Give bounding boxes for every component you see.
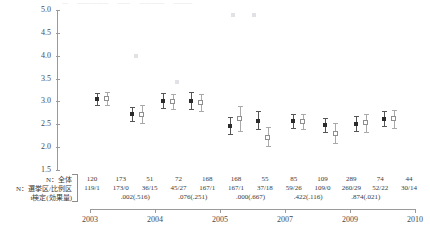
data-point [198,100,203,105]
data-point [265,135,270,140]
y-tick [56,56,60,57]
data-point [170,99,175,104]
data-point [323,123,327,127]
error-bar-cap [130,107,135,108]
error-bar-cap [95,105,100,106]
data-point [161,99,165,103]
x-tick-label: 2004 [135,215,175,224]
error-bar-cap [95,93,100,94]
y-axis-line [57,10,58,170]
y-tick-label: 4.5 [23,29,51,37]
header-fragment: —— [118,0,131,6]
x-tick-label: 2005 [200,215,240,224]
error-bar-cap [140,105,145,106]
error-bar-cap [171,109,176,110]
cell-n-total: 44 [386,175,430,183]
error-bar-cap [256,129,261,130]
x-axis-line [90,209,415,210]
error-bar-cap [364,114,369,115]
error-bar-cap [392,128,397,129]
data-point [237,116,242,121]
y-tick [56,147,60,148]
error-bar-cap [256,111,261,112]
error-bar-cap [189,109,194,110]
error-bar-cap [333,123,338,124]
error-bar-cap [161,93,166,94]
error-bar-cap [301,114,306,115]
y-tick [56,170,60,171]
error-bar-cap [130,121,135,122]
error-bar-cap [266,127,271,128]
data-point [354,122,358,126]
error-bar-cap [266,146,271,147]
error-bar-cap [364,132,369,133]
x-tick-label: 2010 [395,215,430,224]
error-bar-cap [392,110,397,111]
data-point [300,119,305,124]
y-tick [56,124,60,125]
chart-page: ——————————————— 5.04.54.03.53.02.52.01.5… [0,0,430,231]
error-bar-cap [238,106,243,107]
x-tick-label: 2007 [265,215,305,224]
cell-ttest: .874(.021) [331,193,401,201]
clipped-header-strip: ——————————————— [62,0,392,9]
error-bar-cap [333,143,338,144]
data-point [382,117,386,121]
y-tick-label: 2.5 [23,120,51,128]
data-point [95,97,99,101]
data-point [175,80,179,84]
error-bar-cap [105,105,110,106]
data-point [134,54,138,58]
y-tick [56,101,60,102]
header-fragment: ——— [174,0,193,6]
y-tick [56,10,60,11]
data-point [228,124,232,128]
x-tick [415,209,416,213]
error-bar-cap [105,92,110,93]
error-bar-cap [382,111,387,112]
y-tick [56,33,60,34]
error-bar-cap [291,128,296,129]
data-point [231,13,235,17]
data-point [104,96,109,101]
data-point [291,119,295,123]
x-tick-label: 2003 [70,215,110,224]
y-tick-label: 4.0 [23,52,51,60]
error-bar-cap [228,117,233,118]
error-bar-cap [189,92,194,93]
x-tick [350,209,351,213]
annotation-row-labels: N：全体 N：選挙区/比例区 t検定(効果量) [0,172,72,202]
error-bar-cap [171,94,176,95]
error-bar-cap [199,111,204,112]
x-tick [285,209,286,213]
error-bar-cap [199,94,204,95]
y-tick [56,79,60,80]
data-point [333,131,338,136]
error-bar-cap [354,116,359,117]
data-point [252,13,256,17]
x-tick [220,209,221,213]
y-tick-label: 2.0 [23,143,51,151]
error-bar-cap [323,118,328,119]
y-tick-label: 5.0 [23,6,51,14]
error-bar-cap [323,132,328,133]
x-tick-label: 2009 [330,215,370,224]
y-tick-label: 3.0 [23,97,51,105]
error-bar-cap [382,126,387,127]
data-point [189,99,193,103]
header-fragment: ———— [139,0,164,6]
error-bar-cap [238,131,243,132]
error-bar-cap [140,123,145,124]
data-point [139,112,144,117]
error-bar-cap [228,134,233,135]
error-bar-cap [301,129,306,130]
data-point [130,112,134,116]
x-tick [155,209,156,213]
data-point [363,120,368,125]
error-bar-cap [161,108,166,109]
data-point [391,116,396,121]
y-tick-label: 3.5 [23,75,51,83]
data-point [256,119,260,123]
error-bar-cap [291,114,296,115]
x-tick [90,209,91,213]
